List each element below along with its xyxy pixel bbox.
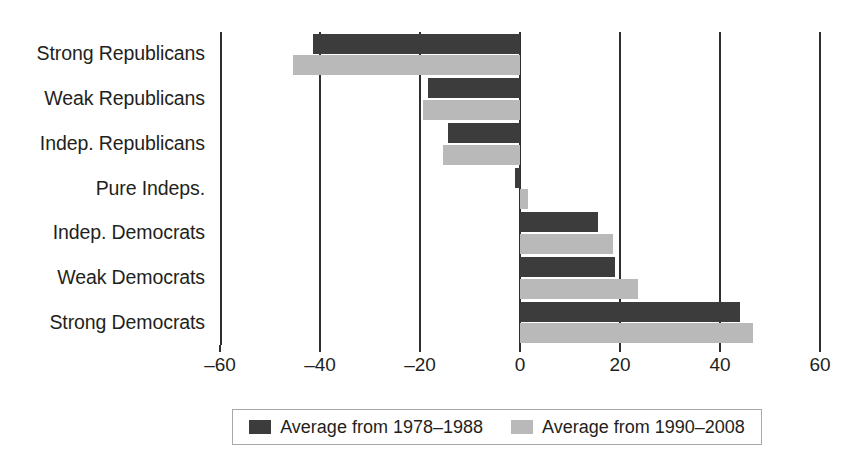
bar-weak-republicans-series-1 — [428, 78, 521, 98]
bar-pure-indeps-series-2 — [520, 189, 528, 209]
category-label-weak-republicans: Weak Republicans — [0, 89, 205, 109]
x-tick-label-neg60: –60 — [204, 355, 236, 375]
bar-weak-democrats-series-2 — [520, 279, 638, 299]
category-label-pure-indeps: Pure Indeps. — [0, 179, 205, 199]
x-tick-label-0: 0 — [515, 355, 526, 375]
light-swatch-icon — [511, 420, 533, 434]
category-label-weak-democrats: Weak Democrats — [0, 268, 205, 288]
category-axis-labels: Strong RepublicansWeak RepublicansIndep.… — [0, 25, 205, 345]
legend-entry-1[interactable]: Average from 1978–1988 — [249, 418, 483, 436]
x-tick-label-neg20: –20 — [404, 355, 436, 375]
bar-pure-indeps-series-1 — [515, 168, 520, 188]
category-label-strong-democrats: Strong Democrats — [0, 313, 205, 333]
bar-strong-democrats-series-1 — [520, 302, 740, 322]
bar-indep-republicans-series-2 — [443, 145, 521, 165]
dark-swatch-icon — [249, 420, 271, 434]
bar-indep-democrats-series-1 — [520, 212, 598, 232]
bar-indep-republicans-series-1 — [448, 123, 521, 143]
x-tick-label-60: 60 — [809, 355, 830, 375]
x-tick-neg40 — [319, 345, 321, 352]
bar-weak-democrats-series-1 — [520, 257, 615, 277]
x-tick-0 — [519, 345, 521, 352]
gridline-neg40 — [319, 32, 321, 345]
x-tick-20 — [619, 345, 621, 352]
x-tick-neg60 — [219, 345, 221, 352]
bar-strong-republicans-series-1 — [313, 34, 521, 54]
bar-indep-democrats-series-2 — [520, 234, 613, 254]
category-label-strong-republicans: Strong Republicans — [0, 44, 205, 64]
x-tick-label-neg40: –40 — [304, 355, 336, 375]
gridline-neg20 — [419, 32, 421, 345]
category-label-indep-republicans: Indep. Republicans — [0, 134, 205, 154]
legend-entry-2[interactable]: Average from 1990–2008 — [511, 418, 745, 436]
bar-weak-republicans-series-2 — [423, 100, 521, 120]
gridline-40 — [719, 32, 721, 345]
legend-label-2: Average from 1990–2008 — [542, 418, 745, 436]
legend-label-1: Average from 1978–1988 — [280, 418, 483, 436]
plot-area — [220, 32, 820, 345]
x-tick-60 — [819, 345, 821, 352]
bar-chart-figure: Strong RepublicansWeak RepublicansIndep.… — [0, 0, 858, 471]
bar-strong-republicans-series-2 — [293, 55, 521, 75]
gridline-60 — [819, 32, 821, 345]
x-axis: –60–40–200204060 — [220, 345, 820, 385]
x-tick-neg20 — [419, 345, 421, 352]
x-tick-label-20: 20 — [609, 355, 630, 375]
bar-strong-democrats-series-2 — [520, 323, 753, 343]
left-axis-line — [220, 32, 222, 345]
x-tick-label-40: 40 — [709, 355, 730, 375]
x-tick-40 — [719, 345, 721, 352]
chart-legend: Average from 1978–1988Average from 1990–… — [232, 409, 762, 445]
category-label-indep-democrats: Indep. Democrats — [0, 223, 205, 243]
